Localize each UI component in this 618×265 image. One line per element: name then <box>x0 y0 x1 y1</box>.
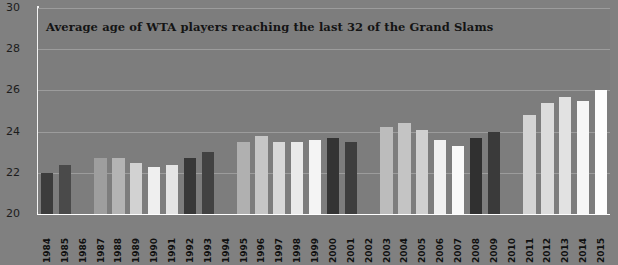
x-tick-label-2002: 2002 <box>364 238 374 263</box>
bar-1985 <box>59 165 71 214</box>
x-tick-label-1990: 1990 <box>149 238 159 263</box>
x-tick-label-2008: 2008 <box>471 238 481 263</box>
x-tick-label-1984: 1984 <box>42 238 52 263</box>
x-tick-label-1991: 1991 <box>167 238 177 263</box>
x-tick-label-2007: 2007 <box>453 238 463 263</box>
chart-container: 202224262830 Average age of WTA players … <box>0 0 618 265</box>
x-tick-label-2013: 2013 <box>560 238 570 263</box>
y-tick-label: 20 <box>6 207 36 220</box>
bar-2006 <box>434 140 446 214</box>
x-tick-label-1998: 1998 <box>292 238 302 263</box>
x-tick-label-1987: 1987 <box>96 238 106 263</box>
bar-2015 <box>595 90 607 214</box>
bar-2000 <box>327 138 339 214</box>
x-tick-label-1996: 1996 <box>256 238 266 263</box>
y-tick-label: 28 <box>6 42 36 55</box>
x-axis-tick-labels: 1984198519861987198819891990199119921993… <box>38 216 610 265</box>
bars-group <box>38 8 610 214</box>
x-tick-label-1986: 1986 <box>78 238 88 263</box>
x-tick-label-2011: 2011 <box>525 238 535 263</box>
bar-1998 <box>291 142 303 214</box>
bar-2013 <box>559 97 571 214</box>
bar-1987 <box>94 158 106 214</box>
bar-1991 <box>166 165 178 214</box>
y-tick-label: 30 <box>6 1 36 14</box>
x-tick-label-2006: 2006 <box>435 238 445 263</box>
x-tick-label-2009: 2009 <box>489 238 499 263</box>
bar-2007 <box>452 146 464 214</box>
bar-1989 <box>130 163 142 215</box>
bar-1992 <box>184 158 196 214</box>
x-tick-label-1988: 1988 <box>113 238 123 263</box>
x-tick-label-1999: 1999 <box>310 238 320 263</box>
x-tick-label-2003: 2003 <box>382 238 392 263</box>
bar-2003 <box>380 127 392 214</box>
bar-2001 <box>345 142 357 214</box>
bar-1995 <box>237 142 249 214</box>
bar-2014 <box>577 101 589 214</box>
bar-2008 <box>470 138 482 214</box>
y-tick-label: 26 <box>6 83 36 96</box>
bar-1984 <box>41 173 53 214</box>
x-tick-label-1993: 1993 <box>203 238 213 263</box>
x-tick-label-2000: 2000 <box>328 238 338 263</box>
x-tick-label-1994: 1994 <box>221 238 231 263</box>
x-tick-label-2010: 2010 <box>507 238 517 263</box>
bar-1999 <box>309 140 321 214</box>
x-tick-label-2012: 2012 <box>542 238 552 263</box>
bar-2009 <box>488 132 500 214</box>
bar-2011 <box>523 115 535 214</box>
bar-1988 <box>112 158 124 214</box>
bar-1990 <box>148 167 160 214</box>
x-tick-label-2015: 2015 <box>596 238 606 263</box>
x-tick-label-2005: 2005 <box>417 238 427 263</box>
x-tick-label-2001: 2001 <box>346 238 356 263</box>
x-tick-label-1995: 1995 <box>239 238 249 263</box>
bar-2004 <box>398 123 410 214</box>
bar-2005 <box>416 130 428 214</box>
bar-1996 <box>255 136 267 214</box>
bar-2012 <box>541 103 553 214</box>
bar-1993 <box>202 152 214 214</box>
x-tick-label-1997: 1997 <box>274 238 284 263</box>
bar-1997 <box>273 142 285 214</box>
x-tick-label-1985: 1985 <box>60 238 70 263</box>
y-tick-label: 24 <box>6 125 36 138</box>
x-tick-label-2004: 2004 <box>399 238 409 263</box>
x-tick-label-2014: 2014 <box>578 238 588 263</box>
x-tick-label-1989: 1989 <box>131 238 141 263</box>
y-tick-label: 22 <box>6 166 36 179</box>
y-axis-tick-labels: 202224262830 <box>0 0 34 220</box>
x-tick-label-1992: 1992 <box>185 238 195 263</box>
